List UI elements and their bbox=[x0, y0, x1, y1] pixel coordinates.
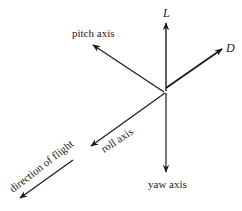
pitch-axis-arrow bbox=[93, 45, 164, 92]
lift-label: L bbox=[162, 6, 170, 20]
drag-arrow bbox=[166, 49, 222, 88]
pitch-axis-label: pitch axis bbox=[72, 27, 114, 39]
roll-axis-label: roll axis bbox=[99, 125, 136, 155]
drag-label: D bbox=[225, 41, 235, 55]
axes-diagram: L D pitch axis roll axis yaw axis direct… bbox=[0, 0, 242, 211]
yaw-axis-label: yaw axis bbox=[148, 178, 187, 190]
